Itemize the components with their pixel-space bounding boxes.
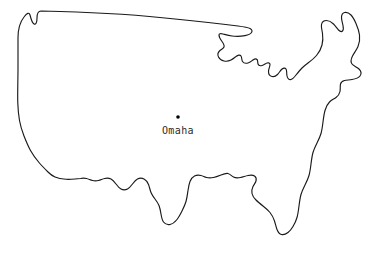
us-map-svg: Omaha (0, 0, 381, 260)
omaha-label: Omaha (162, 125, 194, 136)
omaha-dot-icon (176, 115, 180, 119)
map-figure: Omaha (0, 0, 381, 260)
